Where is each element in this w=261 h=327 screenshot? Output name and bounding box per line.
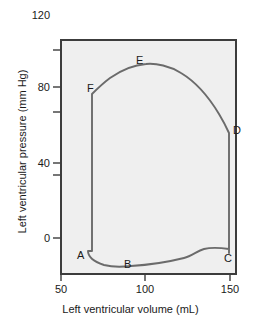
x-axis-title: Left ventricular volume (mL) (0, 303, 261, 316)
x-tick-label-50: 50 (41, 283, 81, 295)
point-label-E: E (136, 54, 143, 66)
pressure-volume-loop-figure: 120 80 40 0 50 100 150 A B C D E F Left (0, 0, 261, 327)
y-tick-label-120: 120 (16, 9, 50, 21)
point-label-D: D (233, 124, 241, 136)
y-axis-title: Left ventricular pressure (mm Hg) (16, 52, 29, 252)
plot-area (60, 39, 237, 275)
point-label-B: B (124, 258, 131, 270)
point-label-F: F (87, 82, 94, 94)
x-tick-label-150: 150 (210, 283, 250, 295)
point-label-C: C (224, 252, 232, 264)
x-tick-label-100: 100 (125, 283, 165, 295)
x-axis-ticks (61, 274, 230, 281)
point-label-A: A (77, 249, 84, 261)
